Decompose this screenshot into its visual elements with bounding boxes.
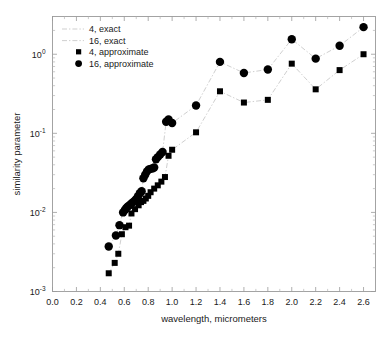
legend-swatch-4-approximate <box>76 49 81 54</box>
data-point-16-approximate <box>137 187 145 195</box>
plot-frame <box>53 17 376 292</box>
x-tick-label: 1.2 <box>190 297 203 307</box>
y-tick-label: 10-1 <box>30 127 46 139</box>
data-point-16-approximate <box>216 58 224 66</box>
data-point-16-approximate <box>288 35 296 43</box>
data-point-16-approximate <box>264 65 272 73</box>
data-point-16-approximate <box>150 163 158 171</box>
data-point-4-approximate <box>241 100 247 106</box>
data-point-16-approximate <box>240 69 248 77</box>
x-tick-label: 0.6 <box>118 297 131 307</box>
data-point-4-approximate <box>166 153 172 159</box>
data-point-4-approximate <box>193 129 199 135</box>
x-tick-label: 1.4 <box>214 297 227 307</box>
data-point-4-approximate <box>112 260 118 266</box>
data-point-16-approximate <box>192 101 200 109</box>
legend-label-4-approximate: 4, approximate <box>89 47 149 57</box>
y-axis-title: similarity parameter <box>11 113 22 196</box>
y-tick-label: 10-3 <box>30 285 46 297</box>
data-point-4-approximate <box>313 86 319 92</box>
legend-swatch-16-approximate <box>75 60 82 67</box>
x-tick-label: 2.2 <box>309 297 322 307</box>
data-point-16-approximate <box>335 42 343 50</box>
data-point-16-approximate <box>168 119 176 127</box>
x-tick-label: 0.8 <box>142 297 155 307</box>
x-tick-label: 0.2 <box>70 297 83 307</box>
legend-label-16-approximate: 16, approximate <box>89 59 154 69</box>
x-tick-label: 1.8 <box>262 297 275 307</box>
legend-label-16-exact: 16, exact <box>89 36 126 46</box>
data-point-4-approximate <box>126 223 132 229</box>
data-point-16-approximate <box>105 242 113 250</box>
data-point-16-approximate <box>158 148 166 156</box>
data-point-4-approximate <box>337 67 343 73</box>
legend-label-4-exact: 4, exact <box>89 24 121 34</box>
data-point-16-approximate <box>311 54 319 62</box>
data-point-4-approximate <box>289 61 295 67</box>
x-tick-label: 0.0 <box>46 297 59 307</box>
x-tick-label: 2.4 <box>333 297 346 307</box>
x-axis-title: wavelength, micrometers <box>160 313 267 324</box>
x-tick-label: 1.6 <box>238 297 251 307</box>
data-point-4-approximate <box>162 174 168 180</box>
similarity-parameter-scatter-plot: 0.00.20.40.60.81.01.21.41.61.82.02.22.42… <box>0 0 391 337</box>
chart-figure: 0.00.20.40.60.81.01.21.41.61.82.02.22.42… <box>0 0 391 337</box>
x-tick-label: 2.0 <box>286 297 299 307</box>
data-point-16-approximate <box>112 231 120 239</box>
data-point-4-approximate <box>169 147 175 153</box>
data-point-4-approximate <box>115 251 121 257</box>
y-tick-label: 100 <box>32 48 46 60</box>
x-tick-label: 1.0 <box>166 297 179 307</box>
series-line-4-approximate <box>109 54 364 273</box>
y-tick-label: 10-2 <box>30 206 46 218</box>
data-point-16-approximate <box>359 23 367 31</box>
x-tick-label: 0.4 <box>94 297 107 307</box>
x-tick-label: 2.6 <box>357 297 370 307</box>
data-point-4-approximate <box>361 51 367 57</box>
data-point-4-approximate <box>265 97 271 103</box>
data-point-4-approximate <box>217 88 223 94</box>
data-point-4-approximate <box>106 270 112 276</box>
data-point-16-approximate <box>115 221 123 229</box>
